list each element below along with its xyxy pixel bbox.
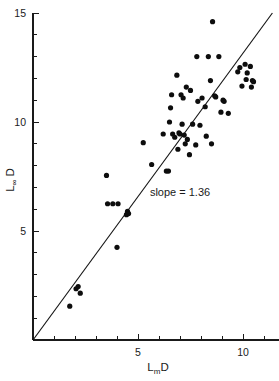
svg-text:L∞ D: L∞ D [4, 168, 19, 192]
regression-line [33, 13, 272, 340]
x-tick-label: 5 [135, 346, 141, 358]
data-point [184, 85, 189, 90]
data-point [188, 88, 193, 93]
data-point [181, 95, 186, 100]
x-tick-label: 10 [237, 346, 249, 358]
data-point [166, 168, 171, 173]
data-point [209, 141, 214, 146]
data-point [208, 78, 213, 83]
y-tick-label: 15 [14, 7, 26, 19]
data-point [216, 54, 221, 59]
data-point [251, 79, 256, 84]
axes-group [33, 13, 279, 340]
data-point [193, 142, 198, 147]
y-tick-label: 10 [14, 116, 26, 128]
y-axis-ticks [33, 13, 39, 318]
slope-annotation: slope = 1.36 [150, 186, 210, 198]
data-point [174, 73, 179, 78]
data-point [172, 135, 177, 140]
data-point [248, 64, 253, 69]
plot-canvas: 51015 510 slope = 1.36 LmD L∞ D [0, 0, 279, 381]
y-tick-label: 5 [20, 225, 26, 237]
y-axis-tick-labels: 51015 [14, 7, 26, 237]
x-axis-tick-labels: 510 [135, 346, 249, 358]
fit-line-segment [33, 13, 272, 340]
data-point [78, 291, 83, 296]
data-point [244, 77, 249, 82]
axis-title-suffix: D [4, 168, 16, 180]
data-point [206, 54, 211, 59]
data-point [222, 99, 227, 104]
data-point [203, 104, 208, 109]
x-axis-title: LmD [147, 361, 168, 376]
axis-title-suffix: D [160, 361, 168, 373]
data-point [167, 119, 172, 124]
svg-text:LmD: LmD [147, 361, 168, 376]
data-point [161, 131, 166, 136]
chart-annotations: slope = 1.36 [150, 186, 210, 198]
data-point [213, 94, 218, 99]
data-point [67, 304, 72, 309]
data-point [105, 201, 110, 206]
scatter-plot-figure: 51015 510 slope = 1.36 LmD L∞ D [0, 0, 279, 381]
data-point [104, 173, 109, 178]
data-point [110, 201, 115, 206]
data-point [210, 19, 215, 24]
data-point [185, 137, 190, 142]
data-point [168, 105, 173, 110]
data-point [114, 245, 119, 250]
data-point [169, 92, 174, 97]
data-point [237, 65, 242, 70]
data-point [239, 83, 244, 88]
data-point [195, 99, 200, 104]
data-point [243, 62, 248, 67]
data-point [126, 211, 131, 216]
data-point [204, 134, 209, 139]
data-point [226, 111, 231, 116]
y-axis-title: L∞ D [4, 168, 19, 192]
data-point [197, 123, 202, 128]
data-point [141, 140, 146, 145]
data-point [149, 162, 154, 167]
data-point [199, 95, 204, 100]
x-axis-ticks [54, 334, 264, 340]
data-point [190, 122, 195, 127]
data-point [175, 147, 180, 152]
data-point [194, 54, 199, 59]
data-point [115, 201, 120, 206]
data-point [249, 85, 254, 90]
data-point [187, 152, 192, 157]
data-point [245, 70, 250, 75]
data-point [76, 284, 81, 289]
data-point [182, 132, 187, 137]
data-point [180, 122, 185, 127]
data-point [218, 110, 223, 115]
